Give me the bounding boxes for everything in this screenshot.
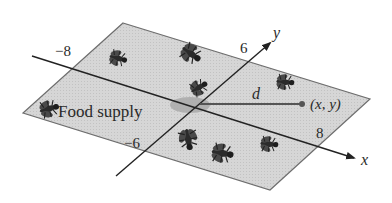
point-marker <box>299 101 305 107</box>
point-label: (x, y) <box>310 96 341 113</box>
food-supply-diagram: −8 8 6 −6 x y Food supply d (x, y) <box>0 0 392 203</box>
x-tick-neg8: −8 <box>55 43 71 59</box>
x-axis-label: x <box>360 151 368 168</box>
y-tick-6: 6 <box>240 40 248 56</box>
y-tick-neg6: −6 <box>124 135 140 151</box>
y-axis-label: y <box>271 24 281 42</box>
x-tick-8: 8 <box>316 125 324 141</box>
food-supply-label: Food supply <box>58 102 143 121</box>
distance-label: d <box>252 85 261 102</box>
